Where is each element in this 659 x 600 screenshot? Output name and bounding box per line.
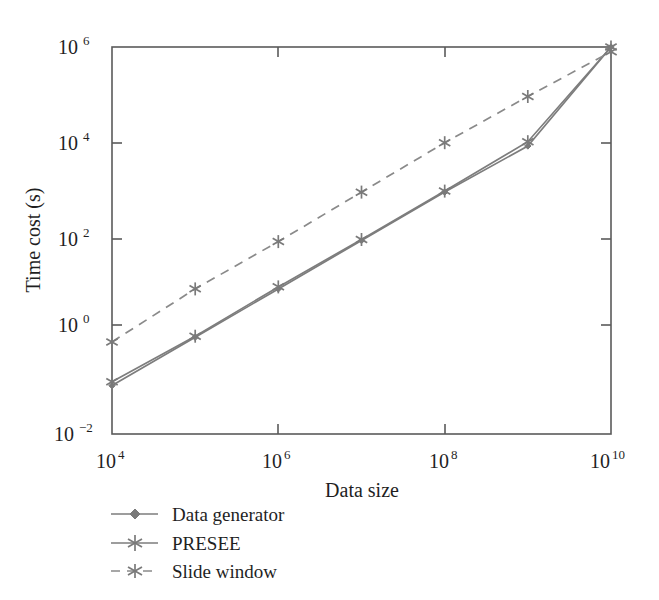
- y-tick-exp-0: 6: [83, 33, 90, 48]
- series-2: [106, 45, 616, 348]
- x-tick-label-3: 10 10: [590, 447, 625, 472]
- y-tick-exp-2: 2: [83, 225, 90, 240]
- y-tick-label-0: 10 6: [58, 33, 90, 58]
- legend-label-0: Data generator: [172, 504, 285, 525]
- y-tick-label-3: 10 0: [58, 311, 90, 336]
- y-tick-base-3: 10: [58, 314, 78, 336]
- x-tick-base-0: 10: [96, 450, 116, 472]
- data-point[interactable]: [190, 282, 201, 295]
- legend-item-2[interactable]: Slide window: [111, 561, 277, 582]
- x-tick-label-2: 10 8: [429, 447, 458, 472]
- x-tick-exp-3: 10: [612, 447, 625, 462]
- y-tick-base-2: 10: [58, 228, 78, 250]
- y-tick-base-1: 10: [58, 132, 78, 154]
- data-point[interactable]: [106, 335, 117, 348]
- data-point[interactable]: [439, 136, 450, 149]
- chart-canvas: 10 6 10 4 10 2 10 0 10 −2 10: [0, 0, 659, 600]
- chart-figure: 10 6 10 4 10 2 10 0 10 −2 10: [0, 0, 659, 600]
- data-point[interactable]: [190, 330, 201, 343]
- x-tick-base-3: 10: [590, 450, 610, 472]
- y-tick-label-2: 10 2: [58, 225, 90, 250]
- x-axis-title: Data size: [325, 479, 399, 501]
- x-tick-labels: 10 4 10 6 10 8 10 10: [96, 447, 625, 472]
- x-tick-base-2: 10: [429, 450, 449, 472]
- y-tick-base-0: 10: [58, 36, 78, 58]
- y-axis-title: Time cost (s): [22, 188, 45, 293]
- y-tick-label-4: 10 −2: [54, 420, 93, 445]
- legend-item-0[interactable]: Data generator: [111, 504, 285, 525]
- data-point[interactable]: [106, 375, 117, 388]
- x-tick-exp-1: 6: [284, 447, 291, 462]
- data-point[interactable]: [356, 186, 367, 199]
- data-point[interactable]: [522, 90, 533, 103]
- x-tick-label-1: 10 6: [262, 447, 291, 472]
- y-tick-label-1: 10 4: [58, 129, 90, 154]
- y-tick-exp-3: 0: [83, 311, 90, 326]
- x-tick-base-1: 10: [262, 450, 282, 472]
- series-line-0: [112, 47, 611, 386]
- series-layer: [106, 41, 616, 389]
- legend-item-1[interactable]: PRESEE: [111, 533, 241, 554]
- y-tick-exp-4: −2: [79, 420, 93, 435]
- data-point[interactable]: [439, 185, 450, 198]
- series-0: [109, 44, 614, 389]
- x-tick-label-0: 10 4: [96, 447, 125, 472]
- data-point[interactable]: [273, 235, 284, 248]
- x-tick-exp-0: 4: [118, 447, 125, 462]
- legend-label-2: Slide window: [172, 561, 277, 582]
- y-tick-exp-1: 4: [83, 129, 90, 144]
- chart-legend: Data generator PRESEE Slide window: [111, 504, 285, 582]
- y-tick-base-4: 10: [54, 423, 74, 445]
- series-line-1: [112, 47, 611, 382]
- diamond-marker-icon: [130, 509, 140, 519]
- legend-label-1: PRESEE: [172, 533, 241, 554]
- y-tick-labels: 10 6 10 4 10 2 10 0 10 −2: [54, 33, 93, 445]
- series-1: [106, 41, 616, 389]
- x-tick-exp-2: 8: [451, 447, 458, 462]
- data-point[interactable]: [356, 233, 367, 246]
